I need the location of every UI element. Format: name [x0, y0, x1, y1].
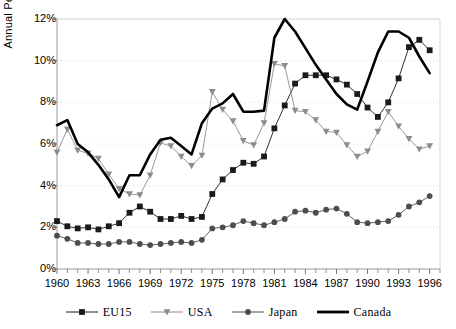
data-point-square	[406, 44, 412, 50]
data-point-square	[189, 216, 195, 222]
data-point-circle	[54, 233, 60, 239]
data-point-square	[209, 191, 215, 197]
data-point-circle	[209, 225, 215, 231]
data-point-circle	[251, 220, 257, 226]
legend-item-canada[interactable]: Canada	[316, 305, 392, 320]
series-line	[57, 19, 430, 197]
data-point-triangle	[230, 118, 237, 124]
data-point-triangle	[136, 192, 143, 198]
legend-swatch-canada-icon	[316, 306, 350, 318]
data-point-square	[96, 227, 102, 233]
chart-container: Annual Percentage 0%2%4%6%8%10%12% 19601…	[0, 0, 456, 329]
data-point-circle	[323, 207, 329, 213]
data-point-square	[230, 167, 236, 173]
data-point-circle	[427, 193, 433, 199]
data-point-circle	[127, 239, 133, 245]
series-usa	[54, 61, 433, 198]
data-point-square	[344, 82, 350, 88]
data-point-square	[64, 223, 70, 229]
data-point-triangle	[364, 148, 371, 154]
data-point-circle	[178, 239, 184, 245]
legend-swatch-eu15-icon	[65, 306, 99, 318]
data-point-triangle	[240, 138, 247, 144]
data-point-triangle	[416, 146, 423, 152]
data-point-circle	[245, 309, 251, 315]
x-tick-label: 1996	[410, 278, 450, 289]
data-point-circle	[303, 208, 309, 214]
data-point-circle	[354, 219, 360, 225]
data-point-square	[427, 47, 433, 53]
line-plot	[0, 0, 456, 300]
data-point-circle	[64, 236, 70, 242]
data-point-circle	[261, 222, 267, 228]
data-point-circle	[375, 219, 381, 225]
data-point-circle	[344, 211, 350, 217]
legend-item-usa[interactable]: USA	[150, 305, 213, 320]
data-point-circle	[313, 210, 319, 216]
data-point-square	[334, 77, 340, 83]
data-point-triangle	[354, 154, 361, 160]
data-point-square	[79, 309, 85, 315]
legend-item-japan[interactable]: Japan	[231, 305, 298, 320]
data-point-square	[75, 225, 81, 231]
data-point-square	[385, 99, 391, 105]
data-point-circle	[292, 209, 298, 215]
data-point-square	[199, 214, 205, 220]
data-point-triangle	[281, 63, 288, 69]
data-point-circle	[282, 216, 288, 222]
data-point-circle	[116, 239, 122, 245]
data-point-square	[354, 91, 360, 97]
data-point-square	[251, 161, 257, 167]
data-point-square	[261, 154, 267, 160]
data-point-square	[137, 204, 143, 210]
data-point-triangle	[54, 150, 61, 156]
data-point-square	[416, 37, 422, 43]
data-point-circle	[189, 240, 195, 246]
data-point-triangle	[374, 129, 381, 135]
data-point-square	[271, 125, 277, 131]
legend-label: Canada	[354, 305, 392, 320]
data-point-triangle	[385, 109, 392, 115]
data-point-square	[178, 213, 184, 219]
data-point-square	[127, 210, 133, 216]
x-axis-ticks: 1960196319661969197219751978198119841987…	[0, 272, 456, 292]
data-point-circle	[385, 218, 391, 224]
legend-item-eu15[interactable]: EU15	[65, 305, 132, 320]
data-point-square	[106, 223, 112, 229]
data-point-triangle	[147, 172, 154, 178]
data-point-square	[85, 224, 91, 230]
data-point-circle	[75, 240, 81, 246]
data-point-triangle	[261, 120, 268, 126]
legend-label: USA	[188, 305, 213, 320]
data-point-triangle	[250, 142, 257, 148]
data-point-circle	[220, 224, 226, 230]
series-japan	[54, 193, 432, 248]
series-line	[57, 40, 430, 230]
data-point-circle	[230, 222, 236, 228]
data-point-square	[116, 220, 122, 226]
data-point-square	[240, 160, 246, 166]
legend-label: EU15	[103, 305, 132, 320]
data-point-circle	[416, 199, 422, 205]
data-point-circle	[334, 206, 340, 212]
data-point-circle	[137, 241, 143, 247]
data-point-circle	[158, 241, 164, 247]
legend-swatch-usa-icon	[150, 306, 184, 318]
data-point-square	[168, 216, 174, 222]
data-point-square	[365, 105, 371, 111]
data-point-circle	[147, 242, 153, 248]
data-point-triangle	[188, 163, 195, 169]
data-point-square	[220, 177, 226, 183]
data-point-square	[54, 218, 60, 224]
data-point-square	[313, 72, 319, 78]
data-point-circle	[271, 219, 277, 225]
data-point-square	[375, 114, 381, 120]
data-point-square	[282, 103, 288, 109]
legend-label: Japan	[269, 305, 298, 320]
series-line	[57, 64, 430, 195]
data-point-circle	[240, 218, 246, 224]
data-point-circle	[106, 241, 112, 247]
data-point-triangle	[209, 89, 216, 95]
data-point-square	[158, 216, 164, 222]
data-point-circle	[96, 241, 102, 247]
